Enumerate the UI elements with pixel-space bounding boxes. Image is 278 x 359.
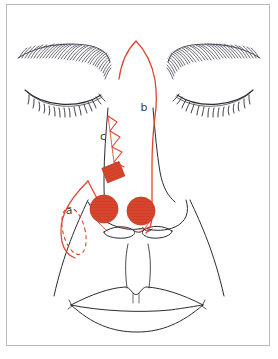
label-a: a bbox=[66, 204, 73, 217]
right-nasolabial-fold bbox=[190, 200, 224, 296]
lower-lip-outline bbox=[71, 305, 203, 332]
face-diagram-canvas: a b c bbox=[0, 0, 278, 359]
upper-lip-outline bbox=[71, 287, 203, 305]
mouth-line bbox=[71, 305, 203, 311]
right-eyebrow bbox=[167, 44, 260, 79]
nasal-reconstruction-figure: a b c bbox=[0, 0, 278, 359]
nose-right-dorsum bbox=[153, 108, 175, 202]
philtrum bbox=[126, 244, 151, 288]
label-b: b bbox=[141, 101, 148, 114]
left-closed-eye bbox=[25, 90, 105, 117]
lips bbox=[68, 287, 206, 332]
defect-circles bbox=[90, 195, 155, 225]
rectangular-graft-marker bbox=[102, 161, 125, 182]
left-eyebrow bbox=[18, 44, 111, 79]
nose-left-dorsum bbox=[104, 108, 108, 200]
right-nasal-sidewall-defect bbox=[127, 197, 155, 225]
right-closed-eye bbox=[173, 90, 253, 117]
label-c: c bbox=[100, 130, 106, 143]
left-nasal-sidewall-defect bbox=[90, 195, 118, 223]
left-nostril bbox=[104, 227, 135, 238]
zigzag-incision-c bbox=[108, 116, 124, 167]
